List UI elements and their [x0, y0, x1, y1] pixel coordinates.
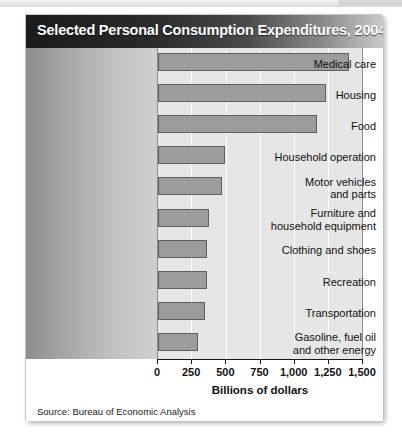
category-label: Housing: [336, 89, 376, 102]
bar-row: [157, 79, 363, 108]
category-label: Furniture and household equipment: [271, 207, 376, 232]
source-note: Source: Bureau of Economic Analysis: [37, 406, 195, 417]
x-tick-label: 0: [154, 366, 160, 378]
chart-plot-wrapper: Medical careHousingFoodHousehold operati…: [26, 48, 383, 421]
x-tick: [362, 359, 363, 364]
x-tick: [225, 359, 226, 364]
x-tick: [191, 359, 192, 364]
x-tick-label: 1,000: [280, 366, 308, 378]
bar: [158, 177, 222, 195]
category-label: Transportation: [305, 307, 376, 320]
category-label: Clothing and shoes: [282, 244, 376, 257]
category-label: Medical care: [314, 58, 376, 71]
x-tick-label: 500: [216, 366, 234, 378]
category-label: Recreation: [323, 276, 376, 289]
bar: [158, 115, 317, 133]
x-tick: [328, 359, 329, 364]
x-tick: [294, 359, 295, 364]
x-tick-label: 250: [182, 366, 200, 378]
category-label-panel: [26, 48, 157, 359]
bar: [158, 302, 205, 320]
x-tick: [260, 359, 261, 364]
category-label: Household operation: [274, 151, 376, 164]
bar: [158, 240, 207, 258]
page-top-edge: [0, 0, 402, 7]
bar: [158, 271, 207, 289]
x-tick: [157, 359, 158, 364]
x-tick-label: 750: [250, 366, 268, 378]
category-label: Motor vehicles and parts: [305, 176, 376, 201]
x-tick-label: 1,250: [314, 366, 342, 378]
bar: [158, 146, 225, 164]
category-label: Gasoline, fuel oil and other energy: [293, 331, 376, 356]
bar-row: [157, 110, 363, 139]
chart-card: Selected Personal Consumption Expenditur…: [25, 14, 382, 420]
bar: [158, 84, 326, 102]
bar: [158, 209, 209, 227]
bar: [158, 333, 198, 351]
chart-title-bar: Selected Personal Consumption Expenditur…: [26, 15, 383, 48]
x-tick-label: 1,500: [348, 366, 376, 378]
x-axis-title: Billions of dollars: [157, 384, 363, 396]
category-label: Food: [351, 120, 376, 133]
x-axis: [157, 359, 363, 365]
page-title: Selected Personal Consumption Expenditur…: [37, 22, 383, 38]
